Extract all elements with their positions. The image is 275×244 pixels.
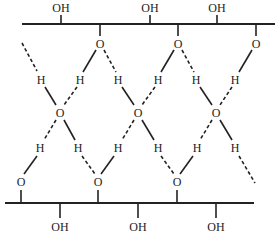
top-oxygen-2: O [174, 37, 183, 51]
lower-h-5: H [193, 141, 202, 155]
bottom-oxygen-1: O [17, 175, 26, 189]
lower-h-6: H [231, 141, 240, 155]
top-chain: OH OH OH O O O [22, 1, 275, 51]
upper-h-3: H [114, 73, 123, 87]
top-hydroxyl-3: OH [208, 1, 226, 15]
lower-h-4: H [154, 141, 163, 155]
bottom-oxygen-2: O [94, 175, 103, 189]
top-oxygen-3: O [252, 37, 261, 51]
lower-h-2: H [74, 141, 83, 155]
top-oxygen-1: O [96, 37, 105, 51]
upper-to-middle-bonds [45, 87, 232, 105]
middle-oxygen-3: O [212, 106, 221, 120]
hydrogen-bond-diagram: OH OH OH O O O H H H H H H [0, 0, 275, 244]
bottom-hydroxyl-3: OH [207, 220, 225, 234]
lower-h-3: H [114, 141, 123, 155]
upper-h-5: H [192, 73, 201, 87]
upper-h-1: H [37, 73, 46, 87]
bottom-hydroxyl-1: OH [51, 220, 69, 234]
upper-bonds [22, 43, 252, 72]
bottom-oxygen-3: O [173, 175, 182, 189]
lower-hydrogen-row: H H H H H H [36, 141, 240, 155]
bottom-chain: O O O OH OH OH [5, 175, 254, 234]
middle-to-lower-bonds [44, 120, 232, 140]
lower-bonds [24, 156, 255, 183]
upper-hydrogen-row: H H H H H H [37, 73, 240, 87]
middle-oxygen-row: O O O [56, 106, 221, 120]
upper-h-4: H [154, 73, 163, 87]
top-hydroxyl-1: OH [52, 1, 70, 15]
lower-h-1: H [36, 141, 45, 155]
top-hydroxyl-2: OH [141, 1, 159, 15]
middle-oxygen-2: O [134, 106, 143, 120]
middle-oxygen-1: O [56, 106, 65, 120]
upper-h-2: H [76, 73, 85, 87]
bottom-hydroxyl-2: OH [129, 220, 147, 234]
upper-h-6: H [231, 73, 240, 87]
